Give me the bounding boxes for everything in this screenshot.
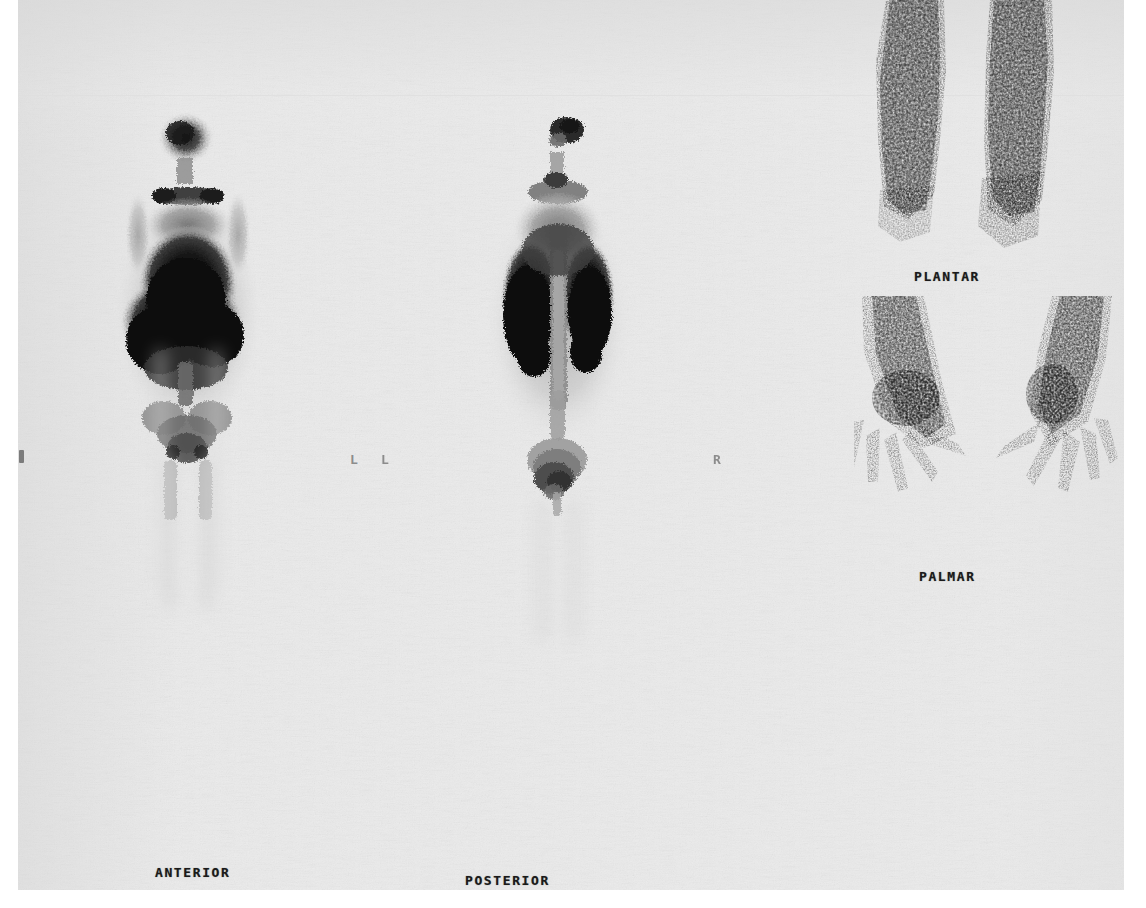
plantar-left-foot (876, 0, 946, 242)
palmar-left-hand (854, 296, 966, 492)
posterior-uptake-map (486, 117, 630, 516)
label-plantar: PLANTAR (914, 269, 980, 284)
posterior-legs-faint (536, 500, 580, 640)
label-posterior: POSTERIOR (465, 873, 550, 888)
panel-plantar-feet (864, 0, 1114, 262)
marker-left-a: L (350, 452, 358, 467)
label-anterior: ANTERIOR (155, 865, 230, 880)
marker-right: R (713, 452, 721, 467)
palmar-right-hand (996, 296, 1118, 492)
panel-anterior-whole-body (60, 100, 320, 660)
panel-palmar-hands (854, 296, 1124, 546)
marker-left-b: L (381, 452, 389, 467)
panel-posterior-whole-body (430, 100, 690, 660)
plantar-right-foot (978, 0, 1054, 248)
label-palmar: PALMAR (919, 569, 976, 584)
edge-position-marker (19, 450, 24, 463)
anterior-uptake-map (112, 112, 264, 520)
scintigraphy-film-sheet: L L R PLANTAR PALMAR ANTERIOR POSTERIOR (0, 0, 1146, 908)
film-exposed-area: L L R PLANTAR PALMAR ANTERIOR POSTERIOR (18, 0, 1124, 890)
